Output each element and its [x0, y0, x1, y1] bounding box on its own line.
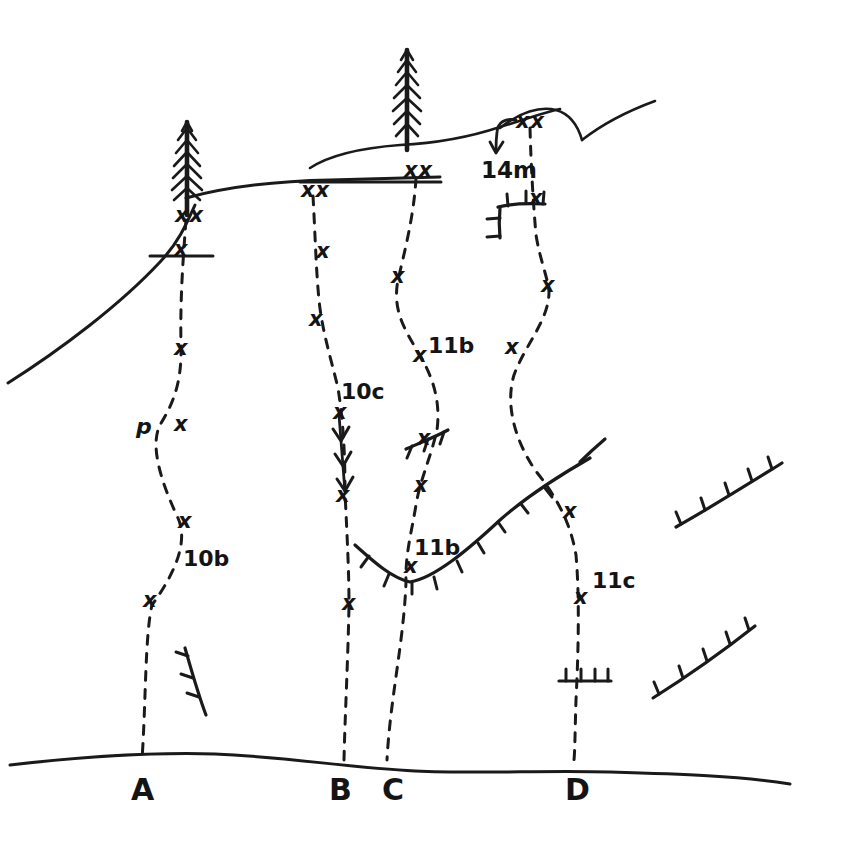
route-c-bolt-2: x — [412, 343, 428, 367]
route-b-station-label: B — [329, 772, 352, 807]
route-d-bolt-3: x — [504, 335, 520, 359]
right-ridge-line — [582, 101, 655, 140]
roof-ticks — [676, 457, 772, 524]
route-a[interactable]: xx x x x x x p 10b A — [131, 203, 229, 807]
roof-line — [653, 626, 755, 698]
roof-right-upper — [676, 457, 782, 527]
tree-right — [393, 50, 421, 150]
route-c-grade-upper: 11b — [428, 333, 474, 358]
topo-sheet: xx x x x x x p 10b A xx x x x x x 10c — [0, 0, 855, 857]
tree-left — [172, 122, 202, 215]
route-d-station-label: D — [565, 772, 590, 807]
route-c-grade-lower: 11b — [414, 535, 460, 560]
route-d-bolt-5: x — [573, 585, 589, 609]
roof-vertical — [499, 208, 500, 238]
roof-lower-left-steep — [176, 648, 206, 715]
route-a-bolt-4: x — [177, 509, 193, 533]
route-d-line[interactable] — [511, 128, 579, 760]
route-d-bolt-4: x — [562, 499, 578, 523]
route-a-bolt-1: x — [173, 237, 189, 261]
route-c-bolt-1: x — [390, 264, 406, 288]
roof-line — [185, 648, 206, 715]
route-a-station-label: A — [131, 772, 155, 807]
route-c-bolt-3: x — [416, 426, 432, 450]
route-d-grade: 11c — [592, 568, 636, 593]
route-c-anchor: xx — [403, 158, 434, 182]
roof-route-d-lower — [559, 669, 611, 681]
route-c-bolt-4: x — [413, 473, 429, 497]
roof-detached-tip — [580, 439, 605, 462]
route-c[interactable]: xx x x x x x 11b 11b C — [382, 158, 474, 807]
route-d-bolt-1: x — [528, 186, 544, 210]
route-b-bolt-1: x — [315, 239, 331, 263]
route-b-bolt-4: x — [335, 483, 351, 507]
left-ridge-line — [8, 205, 195, 383]
roof-right-lower — [653, 618, 755, 698]
roof-line — [355, 458, 590, 582]
route-b-bolt-5: x — [341, 591, 357, 615]
route-d-anchor: xx — [515, 109, 546, 133]
route-b-grade: 10c — [341, 379, 385, 404]
topo-drawing-canvas: xx x x x x x p 10b A xx x x x x x 10c — [0, 0, 855, 857]
route-a-line[interactable] — [142, 220, 186, 760]
route-d[interactable]: xx x x x x x 11c D — [504, 109, 636, 807]
skyline-group — [8, 101, 655, 383]
roof-ticks — [654, 618, 749, 694]
route-a-bolt-3: x — [173, 412, 189, 436]
roof-ticks — [566, 669, 608, 681]
route-b[interactable]: xx x x x x x 10c B — [300, 178, 385, 807]
route-a-bolt-2: x — [173, 336, 189, 360]
route-d-bolt-2: x — [540, 273, 556, 297]
distance-label: 14m — [481, 157, 537, 183]
route-a-grade: 10b — [183, 546, 229, 571]
route-a-anchor: xx — [174, 203, 205, 227]
route-b-anchor: xx — [300, 178, 331, 202]
route-c-station-label: C — [382, 772, 404, 807]
route-a-piton: p — [135, 414, 152, 439]
route-a-bolt-5: x — [142, 588, 158, 612]
route-b-bolt-2: x — [308, 307, 324, 331]
